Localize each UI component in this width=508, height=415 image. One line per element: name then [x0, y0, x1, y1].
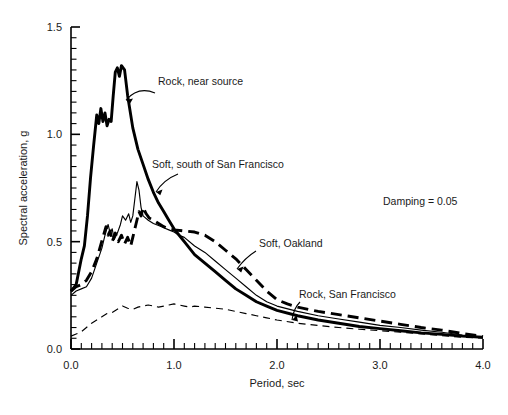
x-tick-label: 0.0 [63, 359, 78, 371]
x-tick-label: 1.0 [166, 359, 181, 371]
y-axis-title-symbol: g [17, 131, 29, 137]
x-tick-label: 2.0 [269, 359, 284, 371]
chart-background [0, 0, 508, 415]
spectral-acceleration-figure: 0.00.51.01.5 0.01.02.03.04.0 Rock, near … [0, 0, 508, 415]
label-soft-south-sf: Soft, south of San Francisco [152, 158, 284, 170]
x-axis-title: Period, sec [249, 377, 305, 389]
label-soft-oakland: Soft, Oakland [259, 237, 323, 249]
y-tick-label: 0.0 [47, 343, 62, 355]
response-spectra-chart: 0.00.51.01.5 0.01.02.03.04.0 Rock, near … [0, 0, 508, 415]
y-axis-title: Spectral acceleration, g [17, 131, 29, 246]
label-rock-sf: Rock, San Francisco [299, 288, 396, 300]
label-damping: Damping = 0.05 [383, 195, 458, 207]
y-tick-label: 1.0 [47, 128, 62, 140]
label-rock-near-source: Rock, near source [158, 75, 243, 87]
y-axis-title-text: Spectral acceleration, [17, 137, 29, 246]
y-tick-label: 0.5 [47, 236, 62, 248]
x-tick-label: 4.0 [475, 359, 490, 371]
y-tick-label: 1.5 [47, 21, 62, 33]
x-tick-label: 3.0 [372, 359, 387, 371]
y-axis-title-group: Spectral acceleration, g [17, 131, 29, 246]
